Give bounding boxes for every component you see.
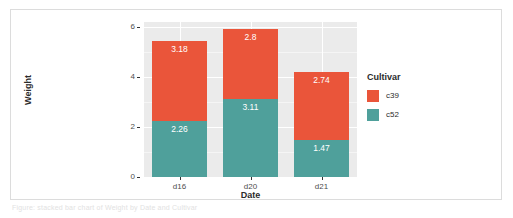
bar-segment[interactable]: 1.47 xyxy=(294,140,349,177)
y-tick-label: 2 xyxy=(131,122,135,132)
y-axis-title: Weight xyxy=(23,60,33,120)
x-tick-mark xyxy=(180,177,181,180)
y-tick: 2 xyxy=(116,122,140,132)
bar-value-label: 2.74 xyxy=(294,75,349,85)
x-axis-title: Date xyxy=(144,190,357,200)
bar-segment[interactable]: 3.11 xyxy=(223,99,278,177)
y-tick-label: 0 xyxy=(131,172,135,182)
x-tick-mark xyxy=(322,177,323,180)
y-tick-mark xyxy=(137,27,140,28)
legend-title: Cultivar xyxy=(367,72,447,82)
y-tick: 4 xyxy=(116,72,140,82)
bar-value-label: 2.8 xyxy=(223,32,278,42)
figure-card: Weight 0246 2.263.183.112.81.472.74 d16d… xyxy=(10,9,502,200)
bar-value-label: 1.47 xyxy=(294,143,349,153)
chart-plot: Weight 0246 2.263.183.112.81.472.74 d16d… xyxy=(11,10,503,201)
bar-segment[interactable]: 2.74 xyxy=(294,72,349,141)
y-tick: 6 xyxy=(116,22,140,32)
legend-swatch-icon xyxy=(367,90,379,102)
bar-group[interactable]: 2.263.18 xyxy=(152,22,207,177)
y-tick-label: 6 xyxy=(131,22,135,32)
plot-panel: 2.263.183.112.81.472.74 xyxy=(144,22,357,177)
bar-value-label: 2.26 xyxy=(152,124,207,134)
y-tick-label: 4 xyxy=(131,72,135,82)
bar-value-label: 3.11 xyxy=(223,102,278,112)
legend-swatch-icon xyxy=(367,109,379,121)
legend-item-label: c52 xyxy=(386,110,399,119)
bar-group[interactable]: 1.472.74 xyxy=(294,22,349,177)
x-tick-mark xyxy=(251,177,252,180)
bar-segment[interactable]: 2.26 xyxy=(152,121,207,178)
y-tick-mark xyxy=(137,77,140,78)
legend-item[interactable]: c52 xyxy=(367,106,447,123)
legend-items: c39c52 xyxy=(367,87,447,123)
bar-segment[interactable]: 2.8 xyxy=(223,29,278,99)
bar-value-label: 3.18 xyxy=(152,44,207,54)
bar-segment[interactable]: 3.18 xyxy=(152,41,207,121)
bar-group[interactable]: 3.112.8 xyxy=(223,22,278,177)
y-tick: 0 xyxy=(116,172,140,182)
y-tick-mark xyxy=(137,177,140,178)
figure-caption: Figure: stacked bar chart of Weight by D… xyxy=(12,204,492,216)
y-tick-mark xyxy=(137,127,140,128)
legend: Cultivar c39c52 xyxy=(367,72,447,125)
legend-item-label: c39 xyxy=(386,91,399,100)
y-axis-ticks: 0246 xyxy=(116,22,140,177)
legend-item[interactable]: c39 xyxy=(367,87,447,104)
